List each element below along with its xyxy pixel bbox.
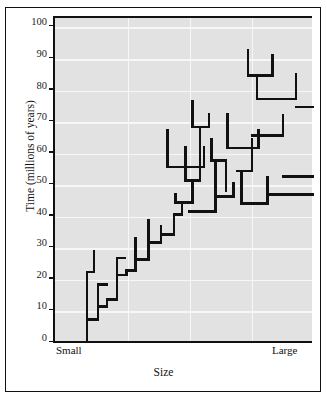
x-axis-title: Size <box>0 366 327 378</box>
y-axis-tick: 20 <box>0 278 53 279</box>
plot-area <box>53 16 312 341</box>
y-axis-tick-mark <box>49 214 53 216</box>
y-axis-tick-label: 40 <box>37 207 48 218</box>
y-axis-tick-mark <box>49 25 53 27</box>
y-axis-tick-label: 100 <box>31 17 47 28</box>
y-axis-tick-label: 10 <box>37 301 48 312</box>
y-axis-tick-mark <box>49 120 53 122</box>
y-axis-tick-label: 30 <box>37 238 48 249</box>
x-axis-right-label: Large <box>272 344 297 356</box>
phylogenetic-tree-plot <box>55 18 314 343</box>
y-axis-tick-mark <box>49 88 53 90</box>
y-axis-tick-label: 70 <box>37 112 48 123</box>
y-axis-tick-label: 20 <box>37 270 48 281</box>
y-axis-title: Time (millions of years) <box>24 56 36 256</box>
y-axis-tick: 100 <box>0 25 53 26</box>
y-axis-tick: 0 <box>0 341 53 342</box>
x-axis-line <box>53 341 312 343</box>
y-axis-tick-label: 0 <box>42 333 47 344</box>
y-axis-tick-label: 50 <box>37 175 48 186</box>
x-axis-left-label: Small <box>56 344 82 356</box>
y-axis-tick-mark <box>49 309 53 311</box>
y-axis-tick-label: 90 <box>37 49 48 60</box>
figure-container: 0102030405060708090100 Time (millions of… <box>0 0 327 399</box>
y-axis-tick-mark <box>49 277 53 279</box>
y-axis-tick-mark <box>49 246 53 248</box>
y-axis-tick-mark <box>49 57 53 59</box>
y-axis-tick-label: 60 <box>37 144 48 155</box>
y-axis-tick: 10 <box>0 309 53 310</box>
y-axis-tick-mark <box>49 151 53 153</box>
y-axis-tick-label: 80 <box>37 81 48 92</box>
y-axis-tick-mark <box>49 341 53 343</box>
y-axis-tick-mark <box>49 183 53 185</box>
